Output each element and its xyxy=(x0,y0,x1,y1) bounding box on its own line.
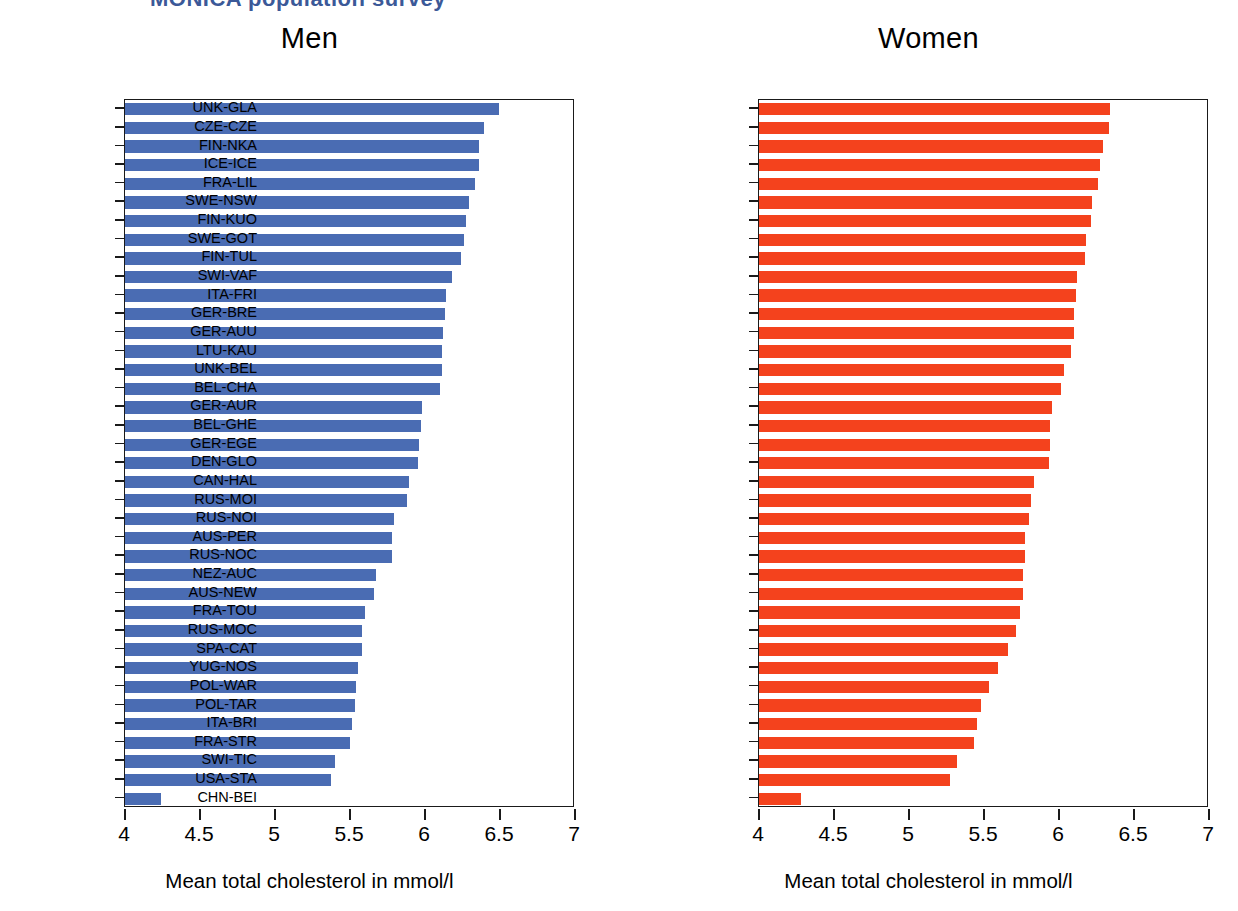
x-axis-tick xyxy=(908,809,910,820)
y-axis-tick xyxy=(749,461,758,463)
x-axis-tick-label: 4 xyxy=(118,822,130,846)
x-axis-tick-label: 5.5 xyxy=(334,822,363,846)
bar-row xyxy=(125,494,573,506)
x-axis-tick-label: 5.5 xyxy=(968,822,997,846)
y-axis-tick xyxy=(749,666,758,668)
bar-row xyxy=(759,625,1207,637)
bar-row xyxy=(125,215,573,227)
bar xyxy=(759,252,1085,264)
y-axis-tick xyxy=(749,219,758,221)
bar-row xyxy=(125,699,573,711)
bar-row xyxy=(759,643,1207,655)
bar xyxy=(759,494,1031,506)
y-axis-label: RUS-MOC xyxy=(188,622,257,637)
bar-row xyxy=(759,606,1207,618)
bar-row xyxy=(759,327,1207,339)
bar xyxy=(125,793,161,805)
y-axis-tick xyxy=(749,704,758,706)
bar xyxy=(125,140,479,152)
bar xyxy=(125,401,422,413)
bar xyxy=(125,513,394,525)
x-axis-tick-label: 4.5 xyxy=(184,822,213,846)
bar xyxy=(759,215,1091,227)
y-axis-tick xyxy=(115,387,124,389)
bar xyxy=(759,569,1023,581)
bar-row xyxy=(125,159,573,171)
y-axis-label: ITA-FRI xyxy=(207,287,257,302)
bar xyxy=(759,122,1109,134)
plot-area-women xyxy=(758,99,1208,807)
y-axis-tick xyxy=(749,722,758,724)
bar-row xyxy=(125,513,573,525)
bar-row xyxy=(759,289,1207,301)
y-axis-tick xyxy=(749,350,758,352)
y-axis-label: FIN-TUL xyxy=(201,249,257,264)
y-axis-tick xyxy=(115,200,124,202)
y-axis-label: FIN-KUO xyxy=(197,212,257,227)
x-axis-women: 44.555.566.57 xyxy=(758,809,1208,853)
y-axis-label: ITA-BRI xyxy=(207,715,257,730)
bar xyxy=(759,774,950,786)
y-axis-tick xyxy=(115,592,124,594)
bar-row xyxy=(125,718,573,730)
x-axis-tick-label: 7 xyxy=(568,822,580,846)
bar xyxy=(125,345,442,357)
y-axis-tick xyxy=(749,387,758,389)
bar xyxy=(759,103,1110,115)
y-axis-tick xyxy=(115,536,124,538)
y-axis-tick xyxy=(115,219,124,221)
bar xyxy=(759,234,1086,246)
y-axis-tick xyxy=(749,573,758,575)
bar xyxy=(125,178,475,190)
y-axis-label: RUS-NOC xyxy=(189,547,257,562)
x-axis-tick xyxy=(199,809,201,820)
bar-row xyxy=(759,196,1207,208)
bar-row xyxy=(759,737,1207,749)
bar xyxy=(125,494,407,506)
x-axis-tick-label: 5 xyxy=(268,822,280,846)
bar xyxy=(759,383,1061,395)
y-axis-label: AUS-PER xyxy=(193,529,257,544)
x-axis-tick xyxy=(349,809,351,820)
y-axis-label: AUS-NEW xyxy=(189,585,257,600)
bar-row xyxy=(759,457,1207,469)
y-axis-tick xyxy=(115,480,124,482)
x-axis-tick xyxy=(1208,809,1210,820)
x-axis-tick xyxy=(758,809,760,820)
bar xyxy=(125,122,484,134)
bar-row xyxy=(125,140,573,152)
y-axis-tick xyxy=(115,424,124,426)
bar-row xyxy=(759,681,1207,693)
x-axis-tick xyxy=(574,809,576,820)
bar xyxy=(759,755,957,767)
x-axis-tick xyxy=(1133,809,1135,820)
y-axis-tick xyxy=(115,443,124,445)
bar-row xyxy=(759,588,1207,600)
bar-row xyxy=(759,215,1207,227)
y-axis-label: GER-AUU xyxy=(190,324,257,339)
bar-row xyxy=(759,476,1207,488)
y-axis-tick xyxy=(749,424,758,426)
bar-row xyxy=(125,383,573,395)
bar xyxy=(759,737,974,749)
bar-row xyxy=(759,159,1207,171)
x-axis-tick xyxy=(124,809,126,820)
x-axis-tick-label: 6.5 xyxy=(1118,822,1147,846)
y-axis-tick xyxy=(749,126,758,128)
y-axis-tick xyxy=(115,238,124,240)
y-axis-tick xyxy=(115,107,124,109)
bar xyxy=(125,420,421,432)
y-axis-tick xyxy=(115,405,124,407)
y-axis-tick xyxy=(115,275,124,277)
y-axis-tick xyxy=(749,294,758,296)
bar xyxy=(759,699,981,711)
y-axis-tick xyxy=(115,666,124,668)
y-axis-tick xyxy=(749,182,758,184)
bar xyxy=(759,718,977,730)
bar-row xyxy=(125,252,573,264)
y-axis-tick xyxy=(115,648,124,650)
y-axis-tick xyxy=(749,499,758,501)
y-axis-label: SWE-NSW xyxy=(185,193,257,208)
y-axis-label: FRA-STR xyxy=(194,734,257,749)
y-axis-label: YUG-NOS xyxy=(189,659,257,674)
